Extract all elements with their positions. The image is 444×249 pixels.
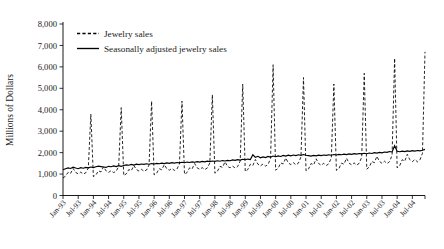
x-axis-tick-label: Jan-93 <box>48 198 68 219</box>
chart-legend: Jewelry sales Seasonally adjusted jewelr… <box>77 29 227 54</box>
legend-label-jewelry-sales: Jewelry sales <box>104 29 153 39</box>
x-axis-tick-label: Jan-02 <box>321 198 341 219</box>
x-axis-tick-label: Jan-98 <box>200 198 220 219</box>
y-axis-tick-label: 0 <box>53 191 57 201</box>
y-axis-tick-label: 1,000 <box>38 169 57 179</box>
y-axis-tick-label: 6,000 <box>38 62 57 72</box>
series-line-seasonally-adjusted <box>63 146 425 170</box>
x-axis-tick-label: Jan-97 <box>169 198 189 219</box>
y-axis: 01,0002,0003,0004,0005,0006,0007,0008,00… <box>38 19 63 201</box>
x-axis-tick-label: Jan-94 <box>78 198 98 219</box>
y-axis-tick-label: 4,000 <box>38 105 57 115</box>
jewelry-sales-chart: Millions of Dollars 01,0002,0003,0004,00… <box>0 0 444 249</box>
y-axis-tick-label: 3,000 <box>38 126 57 136</box>
y-axis-tick-label: 2,000 <box>38 148 57 158</box>
x-axis: Jan-93Jul-93Jan-94Jul-94Jan-95Jul-95Jan-… <box>48 196 425 220</box>
x-axis-tick-label: Jan-00 <box>260 198 280 219</box>
y-axis-tick-label: 5,000 <box>38 83 57 93</box>
chart-canvas: Millions of Dollars 01,0002,0003,0004,00… <box>0 0 444 249</box>
y-axis-title-group: Millions of Dollars <box>5 74 15 146</box>
x-axis-tick-label: Jan-04 <box>382 198 402 219</box>
y-axis-tick-label: 7,000 <box>38 41 57 51</box>
x-axis-tick-label: Jan-95 <box>108 198 128 219</box>
x-axis-tick-label: Jul-04 <box>398 198 418 218</box>
x-axis-tick-label: Jan-03 <box>351 198 371 219</box>
legend-label-seasonally-adjusted: Seasonally adjusted jewelry sales <box>104 44 227 54</box>
y-axis-title: Millions of Dollars <box>5 74 15 146</box>
y-axis-tick-label: 8,000 <box>38 19 57 29</box>
x-axis-tick-label: Jan-01 <box>291 198 311 219</box>
plot-area <box>63 52 425 178</box>
x-axis-tick-label: Jan-96 <box>139 198 159 219</box>
x-axis-tick-label: Jan-99 <box>230 198 250 219</box>
